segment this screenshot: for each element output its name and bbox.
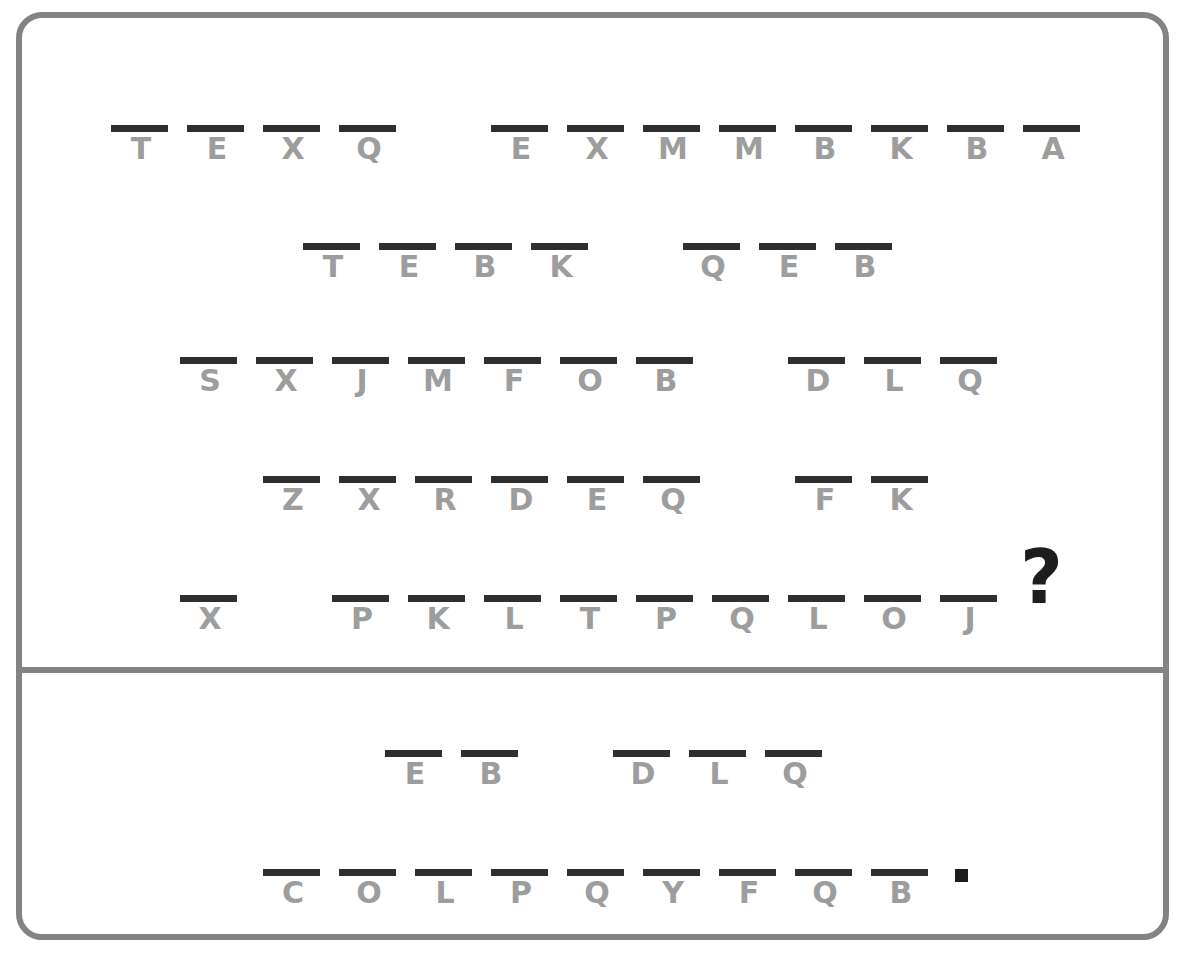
letter-slot[interactable]: Q — [787, 869, 863, 931]
letter-slot[interactable]: T — [295, 243, 371, 305]
letter-slot[interactable]: Q — [675, 243, 751, 305]
letter-slot[interactable]: X — [255, 125, 331, 187]
letter-slot[interactable]: O — [856, 595, 932, 657]
cipher-letter: M — [635, 133, 711, 165]
cipher-letter: E — [559, 484, 635, 516]
letter-slot[interactable]: J — [324, 357, 400, 419]
letter-slot[interactable]: X — [331, 476, 407, 538]
letter-slot[interactable]: L — [407, 869, 483, 931]
letter-slot[interactable]: S — [172, 357, 248, 419]
letter-slot[interactable]: E — [483, 125, 559, 187]
cipher-word: DLQ — [605, 750, 833, 812]
letter-slot[interactable]: K — [400, 595, 476, 657]
letter-slot[interactable]: F — [711, 869, 787, 931]
cipher-word: QEB — [675, 243, 903, 305]
letter-slot[interactable]: X — [172, 595, 248, 657]
letter-slot[interactable]: Q — [704, 595, 780, 657]
letter-slot[interactable]: A — [1015, 125, 1091, 187]
cipher-letter: K — [523, 251, 599, 283]
letter-slot[interactable]: B — [447, 243, 523, 305]
letter-slot[interactable]: P — [483, 869, 559, 931]
cipher-letter: T — [295, 251, 371, 283]
letter-slot[interactable]: T — [552, 595, 628, 657]
letter-slot[interactable]: C — [255, 869, 331, 931]
cipher-letter: Q — [559, 877, 635, 909]
cipher-letter: X — [559, 133, 635, 165]
letter-slot[interactable]: Q — [559, 869, 635, 931]
question-mark-punctuation: ? — [1020, 540, 1063, 614]
letter-slot[interactable]: F — [787, 476, 863, 538]
cipher-letter: P — [324, 603, 400, 635]
letter-slot[interactable]: L — [681, 750, 757, 812]
cipher-letter: S — [172, 365, 248, 397]
letter-slot[interactable]: K — [863, 476, 939, 538]
letter-slot[interactable]: B — [453, 750, 529, 812]
cipher-letter: T — [552, 603, 628, 635]
cipher-letter: K — [400, 603, 476, 635]
letter-slot[interactable]: T — [103, 125, 179, 187]
cipher-letter: A — [1015, 133, 1091, 165]
cipher-letter: C — [255, 877, 331, 909]
letter-slot[interactable]: D — [780, 357, 856, 419]
cipher-letter: Q — [675, 251, 751, 283]
cipher-letter: F — [711, 877, 787, 909]
cipher-letter: B — [453, 758, 529, 790]
cipher-letter: D — [605, 758, 681, 790]
letter-slot[interactable]: E — [559, 476, 635, 538]
cipher-letter: Q — [331, 133, 407, 165]
puzzle-row-row-5: XPKLTPQLOJ — [172, 595, 1008, 657]
letter-slot[interactable]: B — [628, 357, 704, 419]
letter-slot[interactable]: B — [939, 125, 1015, 187]
letter-slot[interactable]: X — [248, 357, 324, 419]
cipher-letter: L — [681, 758, 757, 790]
word-gap — [248, 595, 324, 596]
cipher-letter: F — [787, 484, 863, 516]
letter-slot[interactable]: P — [628, 595, 704, 657]
cipher-letter: L — [407, 877, 483, 909]
letter-slot[interactable]: K — [863, 125, 939, 187]
letter-slot[interactable]: B — [863, 869, 939, 931]
letter-slot[interactable]: E — [179, 125, 255, 187]
cipher-word: TEXQ — [103, 125, 407, 187]
puzzle-row-row-2: TEBKQEB — [295, 243, 903, 305]
letter-slot[interactable]: B — [827, 243, 903, 305]
word-gap — [529, 750, 605, 751]
cipher-letter: L — [476, 603, 552, 635]
letter-slot[interactable]: P — [324, 595, 400, 657]
letter-slot[interactable]: X — [559, 125, 635, 187]
letter-slot[interactable]: L — [780, 595, 856, 657]
letter-slot[interactable]: J — [932, 595, 1008, 657]
letter-slot[interactable]: E — [371, 243, 447, 305]
letter-slot[interactable]: E — [751, 243, 827, 305]
letter-slot[interactable]: D — [483, 476, 559, 538]
letter-slot[interactable]: Q — [757, 750, 833, 812]
letter-slot[interactable]: L — [476, 595, 552, 657]
word-gap — [407, 125, 483, 126]
letter-slot[interactable]: M — [635, 125, 711, 187]
letter-slot[interactable]: D — [605, 750, 681, 812]
period-punctuation — [955, 869, 968, 882]
cipher-letter: O — [856, 603, 932, 635]
letter-slot[interactable]: L — [856, 357, 932, 419]
letter-slot[interactable]: Y — [635, 869, 711, 931]
letter-slot[interactable]: F — [476, 357, 552, 419]
letter-slot[interactable]: Q — [331, 125, 407, 187]
letter-slot[interactable]: M — [711, 125, 787, 187]
letter-slot[interactable]: M — [400, 357, 476, 419]
puzzle-row-row-4: ZXRDEQFK — [255, 476, 939, 538]
letter-slot[interactable]: B — [787, 125, 863, 187]
cipher-letter: B — [628, 365, 704, 397]
letter-slot[interactable]: R — [407, 476, 483, 538]
cipher-word: FK — [787, 476, 939, 538]
letter-slot[interactable]: Z — [255, 476, 331, 538]
cipher-word: X — [172, 595, 248, 657]
letter-slot[interactable]: O — [331, 869, 407, 931]
letter-slot[interactable]: K — [523, 243, 599, 305]
letter-slot[interactable]: Q — [932, 357, 1008, 419]
letter-slot[interactable]: E — [377, 750, 453, 812]
letter-slot[interactable]: Q — [635, 476, 711, 538]
letter-slot[interactable]: O — [552, 357, 628, 419]
cipher-letter: B — [787, 133, 863, 165]
word-gap — [704, 357, 780, 358]
cipher-letter: F — [476, 365, 552, 397]
